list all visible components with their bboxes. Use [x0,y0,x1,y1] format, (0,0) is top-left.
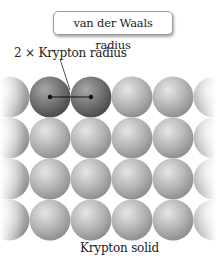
krypton-atom [30,118,71,159]
krypton-atom [30,200,71,241]
atom-center-dot [89,95,93,99]
krypton-atom [112,200,153,241]
krypton-atom [112,159,153,200]
krypton-atom [112,118,153,159]
krypton-atom [71,159,112,200]
krypton-atom [153,77,194,118]
caption: Krypton solid [80,241,159,255]
krypton-atom [153,159,194,200]
krypton-atom [71,118,112,159]
krypton-atom [30,159,71,200]
krypton-atom [112,77,153,118]
krypton-atom [153,200,194,241]
krypton-atom [71,200,112,241]
van-der-waals-label: van der Waals radius [53,11,173,35]
atom-center-dot [48,95,52,99]
krypton-radius-label: 2 × Krypton radius [14,46,127,60]
krypton-atom [153,118,194,159]
